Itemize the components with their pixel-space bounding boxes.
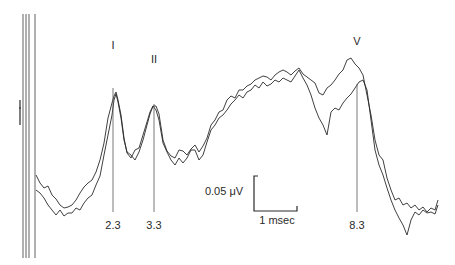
peak-latency-v: 8.3 [349, 220, 364, 231]
stimulus-artifact-lines [23, 14, 35, 258]
peak-label-ii: II [151, 54, 157, 65]
time-scale-label: 1 msec [259, 215, 294, 226]
stimulus-marker-icon [19, 100, 21, 125]
peak-label-i: I [111, 40, 114, 51]
abr-waveform-figure: I II V 2.3 3.3 8.3 0.05 μV 1 msec [0, 0, 455, 265]
scale-bar [254, 176, 297, 211]
peak-latency-ii: 3.3 [146, 220, 161, 231]
waveform-plot [0, 0, 455, 265]
amplitude-scale-label: 0.05 μV [205, 186, 243, 197]
peak-latency-i: 2.3 [105, 220, 120, 231]
peak-label-v: V [353, 36, 360, 47]
